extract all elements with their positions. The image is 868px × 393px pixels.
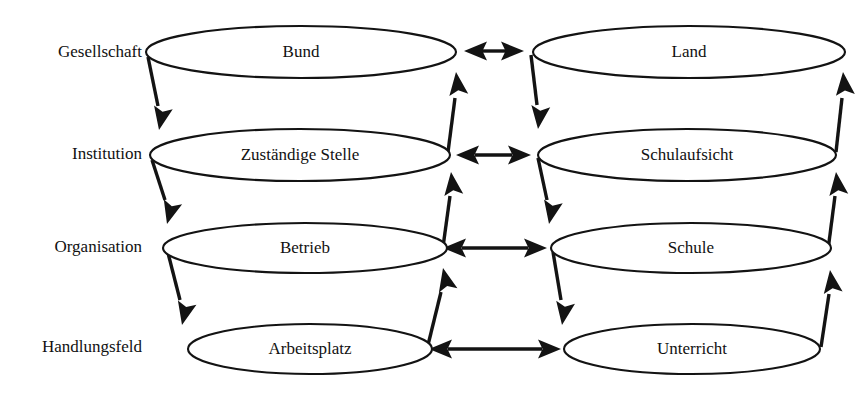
left-column-nodes: Bund Zuständige Stelle Betrieb Arbeitspl… (146, 26, 456, 374)
ebenenmodell-diagram: Gesellschaft Institution Organisation Ha… (0, 0, 868, 393)
node-bund[interactable]: Bund (146, 26, 456, 78)
level-label-handlungsfeld: Handlungsfeld (42, 337, 143, 356)
arrow-up-schulaufsicht-to-land (834, 71, 855, 152)
double-arrow-arbeitsplatz-unterricht (429, 340, 561, 359)
arrow-up-schule-to-schulaufsicht (827, 171, 849, 250)
node-schulaufsicht[interactable]: Schulaufsicht (538, 129, 836, 181)
arrow-up-betrieb-to-zustaendige-stelle (442, 171, 464, 247)
node-label-betrieb: Betrieb (280, 238, 330, 257)
node-label-land: Land (672, 42, 707, 61)
level-label-institution: Institution (72, 144, 142, 163)
node-land[interactable]: Land (533, 26, 845, 78)
double-arrow-betrieb-schule (443, 239, 547, 258)
node-label-bund: Bund (283, 42, 320, 61)
node-betrieb[interactable]: Betrieb (163, 223, 447, 273)
level-label-gesellschaft: Gesellschaft (58, 42, 142, 61)
arrow-up-zustaendige-stelle-to-bund (447, 71, 469, 152)
node-label-unterricht: Unterricht (657, 339, 727, 358)
right-column-upward-arrows (821, 71, 855, 347)
node-schule[interactable]: Schule (551, 223, 831, 273)
node-arbeitsplatz[interactable]: Arbeitsplatz (188, 324, 432, 374)
arrow-down-schule-to-unterricht (553, 252, 575, 326)
arrow-up-arbeitsplatz-to-betrieb (428, 266, 457, 345)
node-label-arbeitsplatz: Arbeitsplatz (268, 339, 352, 358)
double-arrow-bund-land (464, 42, 524, 61)
arrow-up-unterricht-to-schule (821, 269, 843, 347)
right-column-downward-arrows (529, 55, 575, 326)
node-label-zustaendige-stelle: Zuständige Stelle (241, 145, 360, 164)
node-unterricht[interactable]: Unterricht (564, 324, 820, 374)
diagram-canvas: Gesellschaft Institution Organisation Ha… (0, 0, 868, 393)
double-arrow-zustaendige-stelle-schulaufsicht (456, 146, 531, 165)
node-label-schulaufsicht: Schulaufsicht (641, 145, 734, 164)
node-zustaendige-stelle[interactable]: Zuständige Stelle (150, 129, 450, 181)
node-label-schule: Schule (668, 238, 714, 257)
level-label-list: Gesellschaft Institution Organisation Ha… (42, 42, 143, 356)
arrow-down-bund-to-zustaendige-stelle (148, 57, 173, 132)
level-label-organisation: Organisation (54, 237, 142, 256)
left-column-downward-arrows (148, 57, 196, 327)
right-column-nodes: Land Schulaufsicht Schule Unterricht (533, 26, 845, 374)
left-column-upward-arrows (428, 71, 468, 345)
arrow-down-land-to-schulaufsicht (529, 55, 551, 130)
